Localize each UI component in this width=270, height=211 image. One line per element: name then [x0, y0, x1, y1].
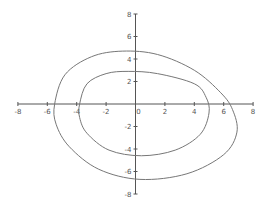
- inner-curve: [79, 71, 210, 155]
- x-tick-label: 2: [163, 108, 167, 116]
- x-tick-label: 6: [221, 108, 226, 116]
- y-tick-label: 8: [127, 11, 131, 19]
- chart-plot-area: -8-6-4-202468 -8-6-4-22468: [0, 0, 270, 211]
- y-tick-label: -8: [125, 191, 132, 199]
- outer-curve: [54, 51, 237, 179]
- x-tick-label: -6: [44, 108, 52, 116]
- x-tick-label: 4: [192, 108, 197, 116]
- x-tick-label: 8: [251, 108, 255, 116]
- y-tick-label: -4: [125, 146, 133, 154]
- y-tick-label: 4: [127, 56, 132, 64]
- x-tick-label: -2: [103, 108, 110, 116]
- y-tick-label: 2: [127, 78, 131, 86]
- curves: [54, 51, 237, 179]
- x-tick-label: 0: [136, 108, 140, 116]
- y-tick-label: -6: [125, 168, 133, 176]
- x-tick-label: -8: [14, 108, 21, 116]
- y-tick-label: 6: [127, 33, 132, 41]
- y-tick-label: -2: [125, 123, 132, 131]
- axes: -8-6-4-202468 -8-6-4-22468: [14, 11, 255, 199]
